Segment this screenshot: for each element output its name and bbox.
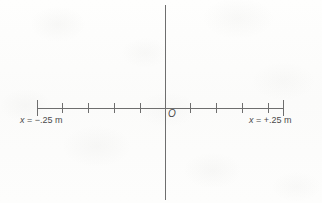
- right-axis-label-value: = +.25 m: [254, 115, 292, 125]
- left-axis-label-value: = −.25 m: [25, 115, 63, 125]
- axis-tick-major-right: [283, 100, 284, 116]
- axis-tick-minor: [190, 103, 191, 113]
- axis-tick-major-left: [37, 100, 38, 116]
- axis-tick-minor: [268, 103, 269, 113]
- origin-label: O: [168, 108, 176, 120]
- vertical-axis: [165, 5, 166, 200]
- paper-texture: [0, 0, 322, 203]
- axis-tick-minor: [140, 103, 141, 113]
- axis-tick-minor: [242, 103, 243, 113]
- axis-tick-minor: [88, 103, 89, 113]
- left-axis-label: x = −.25 m: [20, 115, 63, 126]
- right-axis-label: x = +.25 m: [249, 115, 292, 126]
- axis-tick-minor: [62, 103, 63, 113]
- number-line-figure: O x = −.25 m x = +.25 m: [0, 0, 322, 203]
- axis-tick-minor: [216, 103, 217, 113]
- axis-tick-minor: [114, 103, 115, 113]
- horizontal-axis: [37, 108, 283, 109]
